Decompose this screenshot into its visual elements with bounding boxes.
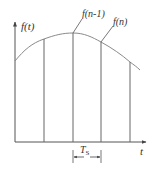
leader-f-n [101,26,113,42]
leader-f-n-minus-1 [73,19,82,33]
label-f-n: f(n) [113,16,128,28]
y-axis-label: f(t) [21,20,35,33]
label-f-n-minus-1: f(n-1) [82,8,105,20]
x-axis-label: t [140,145,144,157]
period-label: TS [80,144,90,157]
signal-curve [15,33,140,70]
sampling-diagram: f(t) t f(n-1) f(n) TS [0,0,155,169]
